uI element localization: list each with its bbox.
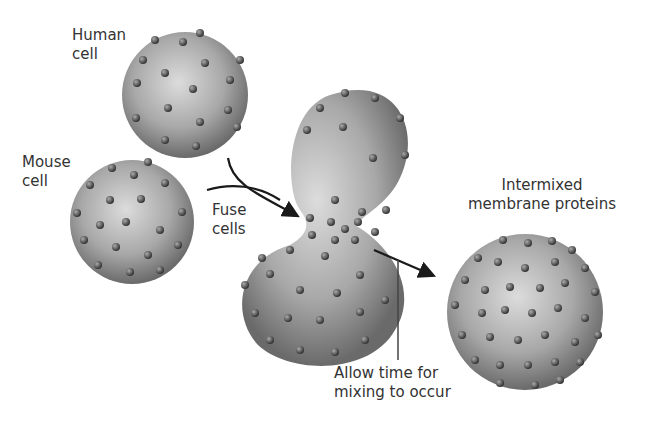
mouse-cell-label-line2: cell xyxy=(22,172,71,191)
intermixed-label-line2: membrane proteins xyxy=(444,195,640,214)
human-cell-label-line2: cell xyxy=(72,45,126,64)
fuse-cells-label: Fuse cells xyxy=(212,201,246,239)
intermixed-label-line1: Intermixed xyxy=(444,176,640,195)
fused-cell xyxy=(241,89,409,366)
human-cell-label-line1: Human xyxy=(72,26,126,45)
allow-time-label: Allow time for mixing to occur xyxy=(334,364,451,402)
allow-time-label-line1: Allow time for xyxy=(334,364,451,383)
diagram-canvas xyxy=(0,0,647,436)
fuse-cells-label-line1: Fuse xyxy=(212,201,246,220)
allow-time-label-line2: mixing to occur xyxy=(334,383,451,402)
human-cell xyxy=(122,29,248,158)
mouse-cell-label-line1: Mouse xyxy=(22,153,71,172)
intermixed-label: Intermixed membrane proteins xyxy=(444,176,640,214)
result-cell xyxy=(447,234,603,390)
mouse-cell-label: Mouse cell xyxy=(22,153,71,191)
fuse-cells-label-line2: cells xyxy=(212,220,246,239)
mouse-cell xyxy=(70,158,194,284)
human-cell-label: Human cell xyxy=(72,26,126,64)
